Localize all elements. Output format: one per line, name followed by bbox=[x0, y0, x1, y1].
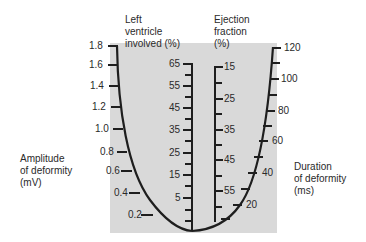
lv-involved-tick-label: 35 bbox=[169, 125, 180, 135]
ejection-fraction-tick-label: 55 bbox=[224, 186, 235, 196]
lv-involved-title-line-2: ventricle bbox=[125, 26, 180, 38]
ejection-fraction-tick-label: 15 bbox=[224, 62, 235, 72]
duration-tick-label: 120 bbox=[284, 43, 301, 53]
lv-involved-tick-label: 5 bbox=[175, 193, 181, 203]
duration-title-line-1: Duration bbox=[294, 161, 346, 173]
amplitude-tick-label: 1.4 bbox=[90, 81, 104, 91]
ejection-fraction-tick-label: 25 bbox=[224, 94, 235, 104]
duration-tick-label: 80 bbox=[278, 106, 289, 116]
lv-involved-title: Left ventricle involved (%) bbox=[125, 14, 180, 50]
lv-involved-tick-label: 25 bbox=[169, 148, 180, 158]
amplitude-tick-label: 1.6 bbox=[89, 60, 103, 70]
amplitude-tick-label: 1.8 bbox=[89, 41, 103, 51]
lv-involved-tick-label: 15 bbox=[169, 170, 180, 180]
amplitude-tick-label: 0.4 bbox=[114, 188, 128, 198]
ejection-fraction-title-line-2: fraction bbox=[214, 26, 250, 38]
amplitude-tick-label: 0.8 bbox=[100, 147, 114, 157]
duration-title-line-2: of deformity bbox=[294, 173, 346, 185]
amplitude-title-line-3: (mV) bbox=[20, 177, 72, 189]
ejection-fraction-tick-label: 35 bbox=[224, 125, 235, 135]
nomogram-canvas bbox=[0, 0, 366, 242]
lv-involved-tick-label: 65 bbox=[169, 59, 180, 69]
lv-involved-tick-label: 45 bbox=[169, 103, 180, 113]
duration-tick-label: 100 bbox=[281, 74, 298, 84]
lv-involved-title-line-1: Left bbox=[125, 14, 180, 26]
ejection-fraction-tick-label: 45 bbox=[224, 155, 235, 165]
ejection-fraction-title-line-3: (%) bbox=[214, 38, 250, 50]
amplitude-title-line-2: of deformity bbox=[20, 165, 72, 177]
duration-title-line-3: (ms) bbox=[294, 185, 346, 197]
duration-tick-label: 60 bbox=[272, 136, 283, 146]
amplitude-tick-label: 0.2 bbox=[128, 210, 142, 220]
lv-involved-tick-label: 55 bbox=[169, 81, 180, 91]
duration-tick-label: 40 bbox=[262, 168, 273, 178]
amplitude-tick-label: 1.0 bbox=[95, 124, 109, 134]
amplitude-tick-label: 1.2 bbox=[92, 102, 106, 112]
amplitude-title-line-1: Amplitude bbox=[20, 153, 72, 165]
amplitude-title: Amplitude of deformity (mV) bbox=[20, 153, 72, 189]
ejection-fraction-title: Ejection fraction (%) bbox=[214, 14, 250, 50]
duration-tick-label: 20 bbox=[246, 200, 257, 210]
ejection-fraction-title-line-1: Ejection bbox=[214, 14, 250, 26]
amplitude-tick-label: 0.6 bbox=[106, 166, 120, 176]
lv-involved-title-line-3: involved (%) bbox=[125, 38, 180, 50]
duration-title: Duration of deformity (ms) bbox=[294, 161, 346, 197]
